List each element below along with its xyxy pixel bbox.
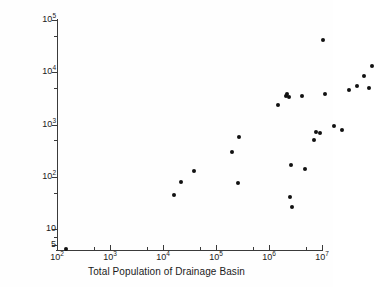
x-tick-label-0: 102 (50, 253, 64, 262)
x-tick-0 (57, 245, 58, 251)
x-tick-label-5: 107 (315, 253, 329, 262)
data-point-26 (367, 86, 371, 90)
data-point-4 (230, 150, 234, 154)
x-tick-3 (216, 245, 217, 251)
x-tick-5 (322, 245, 323, 251)
data-point-7 (276, 103, 280, 107)
data-point-19 (321, 38, 325, 42)
y-minor-tick-2 (54, 140, 58, 141)
x-axis-spine (56, 250, 323, 251)
data-point-14 (300, 94, 304, 98)
y-axis-spine (57, 19, 58, 251)
y-tick-label-3: 102 (42, 172, 56, 181)
data-point-1 (172, 193, 176, 197)
data-point-2 (179, 180, 183, 184)
data-point-12 (289, 163, 293, 167)
data-point-20 (323, 92, 327, 96)
data-point-11 (288, 195, 292, 199)
data-point-24 (355, 84, 359, 88)
y-axis-title: T-P Loading per Lake [t yr-1] (2, 0, 16, 28)
data-point-13 (290, 205, 294, 209)
caption-artifact (8, 281, 208, 285)
x-tick-label-1: 103 (103, 253, 117, 262)
y-minor-tick-0 (54, 36, 58, 37)
y-tick-label-4: 10 (46, 224, 56, 233)
data-point-16 (312, 138, 316, 142)
y-tick-label-2: 103 (42, 120, 56, 129)
data-point-23 (347, 88, 351, 92)
data-point-15 (303, 167, 307, 171)
x-minor-tick-0 (94, 247, 95, 251)
data-point-6 (237, 135, 241, 139)
x-minor-tick-3 (253, 247, 254, 251)
y-tick-label-1: 104 (42, 67, 56, 76)
x-tick-label-2: 104 (156, 253, 170, 262)
x-axis-title: Total Population of Drainage Basin (0, 266, 333, 277)
x-tick-4 (269, 245, 270, 251)
data-point-10 (287, 95, 291, 99)
y-minor-tick-1 (54, 88, 58, 89)
data-point-22 (340, 128, 344, 132)
data-point-18 (318, 131, 322, 135)
x-minor-tick-2 (200, 247, 201, 251)
x-tick-label-4: 106 (262, 253, 276, 262)
x-minor-tick-4 (306, 247, 307, 251)
y-minor-tick-4 (54, 237, 58, 238)
x-tick-label-3: 105 (209, 253, 223, 262)
data-point-3 (192, 169, 196, 173)
x-tick-2 (163, 245, 164, 251)
data-point-5 (236, 181, 240, 185)
data-point-27 (370, 64, 374, 68)
x-tick-1 (110, 245, 111, 251)
y-tick-label-5: 5 (51, 240, 56, 249)
x-minor-tick-1 (147, 247, 148, 251)
y-tick-label-0: 105 (42, 15, 56, 24)
data-point-25 (362, 74, 366, 78)
y-minor-tick-3 (54, 193, 58, 194)
data-point-21 (332, 124, 336, 128)
